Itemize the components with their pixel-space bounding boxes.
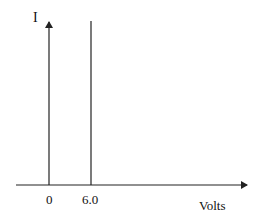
plot-svg xyxy=(0,0,266,220)
x-tick-6: 6.0 xyxy=(82,193,98,206)
x-axis-label: Volts xyxy=(199,199,226,212)
y-axis-label: I xyxy=(33,11,38,25)
x-tick-0: 0 xyxy=(46,193,53,206)
chart-area: I 0 6.0 Volts xyxy=(0,0,266,220)
